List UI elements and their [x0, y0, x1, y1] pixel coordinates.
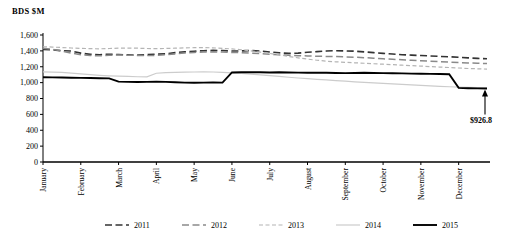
y-axis-tick-label: 1,600 [20, 31, 38, 40]
legend-label-2012[interactable]: 2012 [211, 221, 227, 230]
y-axis-tick-label: 400 [26, 126, 38, 135]
annotation-arrow-head [482, 89, 488, 96]
y-axis-tick-label: 600 [26, 110, 38, 119]
y-axis-tick-label: 1,400 [20, 47, 38, 56]
y-axis-tick-label: 200 [26, 142, 38, 151]
x-axis-month-label: June [228, 167, 237, 182]
legend-label-2015[interactable]: 2015 [442, 221, 458, 230]
legend-label-2011[interactable]: 2011 [134, 221, 150, 230]
x-axis-month-label: September [341, 168, 350, 201]
x-axis-month-label: February [77, 168, 86, 196]
series-line-2015 [43, 72, 487, 88]
x-axis-month-label: October [379, 168, 388, 193]
chart-title: BDS $M [12, 6, 45, 16]
chart-container: BDS $M 02004006008001,0001,2001,4001,600… [0, 0, 510, 240]
annotation-value-label: $926.8 [470, 116, 492, 125]
y-axis-tick-label: 1,000 [20, 78, 38, 87]
x-axis-month-label: May [190, 168, 199, 182]
x-axis-month-label: April [152, 168, 161, 184]
y-axis-tick-label: 800 [26, 94, 38, 103]
y-axis-tick-label: 0 [34, 158, 38, 167]
y-axis-tick-label: 1,200 [20, 63, 38, 72]
x-axis-month-label: January [39, 168, 48, 192]
legend-label-2013[interactable]: 2013 [288, 221, 304, 230]
legend-label-2014[interactable]: 2014 [365, 221, 381, 230]
x-axis-month-label: December [455, 168, 464, 200]
x-axis-month-label: March [115, 168, 124, 188]
x-axis-month-label: July [266, 168, 275, 181]
x-axis-month-label: November [417, 168, 426, 201]
x-axis-month-label: August [304, 167, 313, 190]
series-line-2013 [43, 47, 487, 69]
line-chart-svg: 02004006008001,0001,2001,4001,600January… [0, 0, 510, 240]
